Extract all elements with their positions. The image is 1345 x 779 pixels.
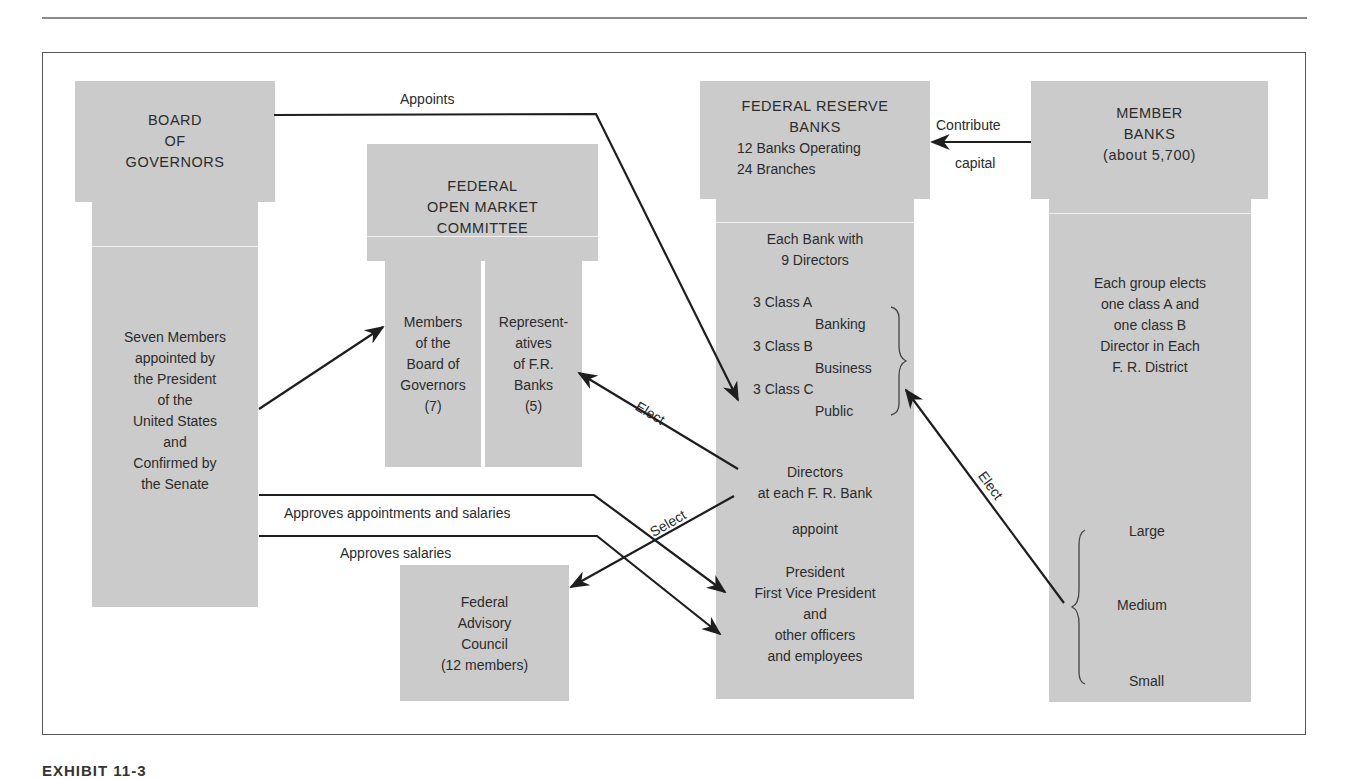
appoint-label: appoint: [716, 519, 914, 540]
member-banks-description: Each group elects one class A and one cl…: [1049, 273, 1251, 378]
class-c-label: 3 Class C: [753, 381, 814, 397]
contribute-label: Contribute: [936, 117, 1001, 133]
box-seam: [716, 222, 914, 223]
fomc-board-members: Members of the Board of Governors (7): [385, 312, 481, 417]
approves-salaries-label: Approves salaries: [340, 545, 451, 561]
class-a-label: 3 Class A: [753, 294, 812, 310]
size-small: Small: [1129, 673, 1164, 689]
federal-reserve-banks-subtitle: 12 Banks Operating 24 Branches: [737, 138, 907, 180]
box-seam: [92, 246, 258, 247]
top-rule: [42, 17, 1307, 19]
class-b-label: 3 Class B: [753, 338, 813, 354]
approves-appointments-label: Approves appointments and salaries: [284, 505, 510, 521]
bank-officers: President First Vice President and other…: [716, 562, 914, 667]
capital-label: capital: [955, 155, 995, 171]
class-a-type: Banking: [815, 316, 866, 332]
size-large: Large: [1129, 523, 1165, 539]
directors-at-each-bank: Directors at each F. R. Bank: [716, 462, 914, 504]
exhibit-caption: EXHIBIT 11-3: [42, 762, 147, 779]
advisory-council-text: Federal Advisory Council (12 members): [400, 592, 569, 676]
board-of-governors-description: Seven Members appointed by the President…: [92, 327, 258, 495]
box-seam: [1049, 213, 1251, 214]
class-c-type: Public: [815, 403, 853, 419]
appoints-label: Appoints: [400, 91, 454, 107]
size-medium: Medium: [1117, 597, 1167, 613]
board-of-governors-title: BOARD OF GOVERNORS: [75, 110, 275, 173]
directors-heading: Each Bank with 9 Directors: [716, 229, 914, 271]
federal-reserve-banks-title: FEDERAL RESERVE BANKS: [700, 96, 930, 138]
fomc-bank-representatives: Represent- atives of F.R. Banks (5): [485, 312, 582, 417]
member-banks-title: MEMBER BANKS (about 5,700): [1031, 103, 1268, 166]
class-b-type: Business: [815, 360, 872, 376]
fomc-title: FEDERAL OPEN MARKET COMMITTEE: [367, 176, 598, 239]
